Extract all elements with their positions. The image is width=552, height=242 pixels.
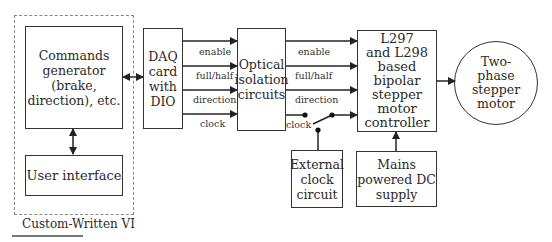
external-clock-label: External clock circuit bbox=[290, 157, 344, 202]
signal-label: enable bbox=[199, 46, 231, 57]
stepper-controller-block: L297 and L298 based bipolar stepper moto… bbox=[357, 30, 437, 132]
signal-label: direction bbox=[295, 94, 338, 105]
daq-card-block: DAQ card with DIO bbox=[143, 28, 183, 129]
group-underline bbox=[12, 235, 83, 237]
signal-label: direction bbox=[193, 94, 236, 105]
signal-label: full/half bbox=[295, 70, 332, 81]
external-clock-block: External clock circuit bbox=[291, 150, 343, 208]
stepper-motor-label: Two- phase stepper motor bbox=[472, 55, 520, 111]
mains-dc-supply-label: Mains powered DC supply bbox=[357, 157, 436, 202]
optical-isolation-block: Optical isolation circuits bbox=[237, 28, 286, 131]
mains-dc-supply-block: Mains powered DC supply bbox=[356, 151, 437, 207]
signal-label: full/half bbox=[196, 70, 233, 81]
commands-generator-label: Commands generator (brake, direction), e… bbox=[26, 48, 122, 108]
user-interface-block: User interface bbox=[25, 155, 123, 196]
signal-label: enable bbox=[298, 46, 330, 57]
signal-label: clock bbox=[286, 119, 311, 130]
group-label: Custom-Written VI bbox=[22, 217, 135, 231]
clock-switch bbox=[313, 115, 332, 124]
commands-generator-block: Commands generator (brake, direction), e… bbox=[25, 26, 123, 129]
stepper-motor-node: Two- phase stepper motor bbox=[454, 41, 538, 125]
user-interface-label: User interface bbox=[27, 168, 122, 183]
signal-label: clock bbox=[200, 118, 225, 129]
stepper-controller-label: L297 and L298 based bipolar stepper moto… bbox=[365, 32, 430, 130]
daq-card-label: DAQ card with DIO bbox=[144, 49, 182, 109]
optical-isolation-label: Optical isolation circuits bbox=[235, 57, 289, 102]
